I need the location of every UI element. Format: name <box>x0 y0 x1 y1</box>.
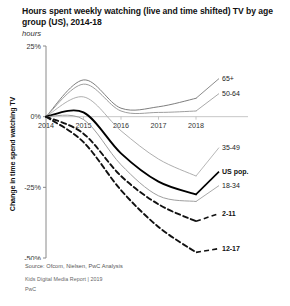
series-label-35-49: 35-49 <box>222 144 240 151</box>
series-label-layer: 65+50-6435-49US pop.18-342-1112-17 <box>222 75 248 252</box>
y-tick-label: 0% <box>31 112 42 121</box>
series-label-us-pop: US pop. <box>222 168 248 176</box>
series-leader <box>196 148 219 176</box>
series-label-12-17: 12-17 <box>222 245 240 252</box>
source-note: Source: Ofcom, Nielsen, PwC Analysis <box>25 263 123 269</box>
series-label-50-64: 50-64 <box>222 90 240 97</box>
line-chart: 25%0%-25%-50%20142015201620172018 65+50-… <box>0 36 290 260</box>
brand-note: PwC <box>25 286 36 292</box>
x-tick-label: 2017 <box>151 121 167 130</box>
series-leader <box>196 172 219 195</box>
series-leader <box>196 79 219 99</box>
series-label-18-34: 18-34 <box>222 182 240 189</box>
series-leader <box>196 94 219 111</box>
y-tick-label: -50% <box>24 254 41 260</box>
chart-title: Hours spent weekly watching (live and ti… <box>22 6 274 27</box>
series-leader <box>196 249 219 253</box>
x-tick-label: 2018 <box>188 121 204 130</box>
series-line-2-11 <box>46 117 196 222</box>
y-tick-label: 25% <box>27 42 42 51</box>
y-tick-label: -25% <box>24 183 41 192</box>
chart-plot-area: 25%0%-25%-50%20142015201620172018 65+50-… <box>0 36 290 260</box>
series-label-2-11: 2-11 <box>222 210 236 217</box>
series-layer <box>46 79 219 253</box>
series-leader <box>196 214 219 222</box>
report-note: Kids Digital Media Report | 2019 <box>25 276 102 282</box>
axis-layer: 25%0%-25%-50%20142015201620172018 <box>24 42 248 260</box>
series-label-65: 65+ <box>222 75 234 82</box>
series-line-12-17 <box>46 117 196 253</box>
series-leader <box>196 186 219 202</box>
x-tick-label: 2014 <box>38 121 54 130</box>
